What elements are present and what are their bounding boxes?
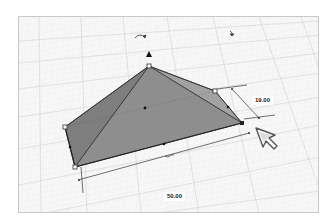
depth-dimension-label[interactable]: 19.00 bbox=[252, 96, 273, 105]
workplane-viewport[interactable]: 19.00 50.00 bbox=[18, 16, 319, 213]
workplane-grid bbox=[19, 17, 319, 213]
width-dimension-label[interactable]: 50.00 bbox=[164, 192, 185, 201]
